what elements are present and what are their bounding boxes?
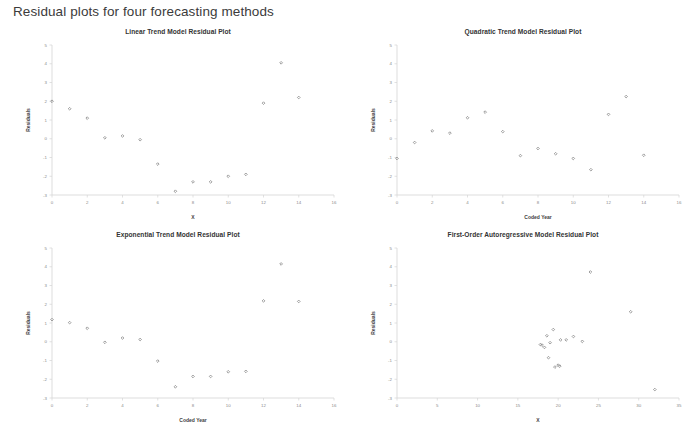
data-point — [68, 321, 71, 324]
x-tick-label: 5 — [436, 403, 439, 408]
y-tick-label: -3 — [388, 396, 392, 401]
data-series — [396, 95, 645, 171]
y-tick-label: 3 — [45, 80, 48, 85]
y-tick-label: -3 — [43, 193, 47, 198]
data-point — [68, 107, 71, 110]
chart-panel-quadratic-trend: Quadratic Trend Model Residual Plot 0246… — [353, 28, 693, 228]
data-point — [572, 335, 575, 338]
data-series — [51, 263, 300, 389]
y-tick-label: -1 — [388, 155, 392, 160]
y-tick-label: -3 — [43, 396, 47, 401]
y-axis-title: Residuals — [370, 311, 376, 335]
data-point — [590, 168, 593, 171]
x-tick-label: 12 — [261, 200, 266, 205]
data-point — [546, 334, 549, 337]
x-tick-label: 16 — [332, 200, 337, 205]
data-point — [413, 141, 416, 144]
data-point — [552, 328, 555, 331]
y-axis-title: Residuals — [370, 108, 376, 132]
x-tick-label: 0 — [51, 403, 54, 408]
y-tick-label: 0 — [45, 136, 48, 141]
data-point — [642, 154, 645, 157]
x-tick-label: 15 — [515, 403, 520, 408]
data-point — [572, 157, 575, 160]
x-tick-label: 25 — [596, 403, 601, 408]
y-tick-label: 0 — [45, 339, 48, 344]
x-axis-title: X — [191, 214, 195, 220]
data-point — [629, 310, 632, 313]
x-axis-title: Coded Year — [524, 214, 551, 220]
plot-area: 05101520253035-3-2-1012345XResiduals — [353, 231, 693, 431]
y-tick-label: 1 — [390, 321, 393, 326]
x-tick-label: 10 — [571, 200, 576, 205]
data-point — [484, 111, 487, 114]
x-tick-label: 12 — [606, 200, 611, 205]
data-point — [209, 181, 212, 184]
data-point — [280, 263, 283, 266]
x-tick-label: 14 — [296, 403, 301, 408]
data-point — [139, 138, 142, 141]
y-tick-label: 2 — [390, 302, 393, 307]
data-point — [192, 181, 195, 184]
data-point — [607, 113, 610, 116]
data-point — [86, 327, 89, 330]
x-tick-label: 4 — [121, 403, 124, 408]
chart-panel-exponential-trend: Exponential Trend Model Residual Plot 02… — [8, 231, 348, 431]
data-point — [559, 339, 562, 342]
x-tick-label: 0 — [396, 200, 399, 205]
data-point — [625, 95, 628, 98]
data-point — [121, 337, 124, 340]
y-tick-label: -3 — [388, 193, 392, 198]
data-point — [245, 370, 248, 373]
data-point — [565, 339, 568, 342]
y-tick-label: 5 — [390, 43, 393, 48]
y-tick-label: -1 — [43, 358, 47, 363]
y-tick-label: 4 — [45, 61, 48, 66]
page-title: Residual plots for four forecasting meth… — [13, 4, 274, 19]
y-tick-label: 1 — [390, 118, 393, 123]
data-point — [581, 340, 584, 343]
data-point — [280, 61, 283, 64]
plot-area: 0246810121416-3-2-1012345Coded YearResid… — [353, 28, 693, 228]
y-tick-label: 1 — [45, 118, 48, 123]
y-tick-label: -2 — [388, 377, 392, 382]
y-tick-label: 4 — [45, 264, 48, 269]
data-point — [554, 152, 557, 155]
chart-panel-first-order-autoregressive: First-Order Autoregressive Model Residua… — [353, 231, 693, 431]
x-tick-label: 16 — [677, 200, 682, 205]
plot-area: 0246810121416-3-2-1012345Coded YearResid… — [8, 231, 348, 431]
x-tick-label: 14 — [296, 200, 301, 205]
y-tick-label: 3 — [45, 283, 48, 288]
data-point — [262, 102, 265, 105]
data-point — [86, 117, 89, 120]
x-tick-label: 0 — [396, 403, 399, 408]
x-tick-label: 0 — [51, 200, 54, 205]
data-point — [262, 300, 265, 303]
y-tick-label: 4 — [390, 264, 393, 269]
x-tick-label: 14 — [641, 200, 646, 205]
y-axis-title: Residuals — [25, 311, 31, 335]
x-tick-label: 4 — [121, 200, 124, 205]
y-tick-label: -1 — [388, 358, 392, 363]
x-axis-title: X — [536, 417, 540, 423]
y-tick-label: -1 — [43, 155, 47, 160]
x-tick-label: 4 — [466, 200, 469, 205]
x-axis-title: Coded Year — [179, 417, 206, 423]
data-point — [543, 346, 546, 349]
y-tick-label: 0 — [390, 339, 393, 344]
data-point — [466, 116, 469, 119]
chart-panel-linear-trend: Linear Trend Model Residual Plot 0246810… — [8, 28, 348, 228]
x-tick-label: 16 — [332, 403, 337, 408]
x-tick-label: 30 — [636, 403, 641, 408]
x-tick-label: 8 — [192, 403, 195, 408]
y-tick-label: 2 — [45, 302, 48, 307]
data-point — [554, 366, 557, 369]
data-point — [549, 341, 552, 344]
data-point — [431, 130, 434, 133]
data-point — [589, 271, 592, 274]
data-point — [104, 136, 107, 139]
x-tick-label: 12 — [261, 403, 266, 408]
data-point — [558, 365, 561, 368]
data-point — [156, 360, 159, 363]
y-tick-label: 5 — [45, 43, 48, 48]
